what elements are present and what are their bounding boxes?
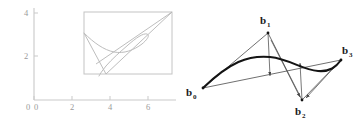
chord-b0-b1 — [84, 33, 106, 74]
label-b1: b 1 — [260, 14, 271, 29]
control-polygon — [203, 33, 341, 100]
left-plot-panel: 2 4 0 0 2 4 6 — [0, 0, 178, 124]
bezier-diagram-svg: b 0 b 1 b 2 b 3 — [178, 0, 356, 124]
label-b2: b 2 — [295, 105, 306, 120]
x-axis-ticks — [34, 96, 148, 100]
arrow-b1-down-icon — [268, 33, 270, 76]
chord-b2-b3 — [96, 12, 172, 64]
label-b3-sub: 3 — [349, 51, 353, 59]
control-point-b2 — [301, 99, 304, 102]
polygon-edge-b0-b3 — [203, 60, 341, 88]
y-tick-label-2: 2 — [24, 51, 28, 61]
label-b3: b 3 — [342, 44, 353, 59]
label-b2-base: b — [295, 105, 301, 117]
label-b0: b 0 — [186, 86, 197, 101]
chord-b1-b2 — [106, 12, 172, 74]
label-b1-base: b — [260, 14, 266, 26]
right-bezier-panel: b 0 b 1 b 2 b 3 — [178, 0, 356, 124]
bezier-curve — [203, 57, 341, 88]
left-plot-curve — [84, 33, 148, 76]
polygon-edge-b1-b2 — [268, 33, 302, 100]
origin-label: 0 — [26, 102, 30, 112]
x-tick-label-6: 6 — [146, 102, 150, 112]
x-tick-label-4: 4 — [108, 102, 113, 112]
left-plot-chords — [84, 12, 172, 74]
arrow-b1-to-b2-icon — [271, 40, 300, 97]
x-tick-label-0: 0 — [34, 102, 38, 112]
left-plot-axes — [34, 8, 176, 100]
label-b0-sub: 0 — [193, 93, 197, 101]
left-plot-svg: 2 4 0 0 2 4 6 — [0, 0, 178, 124]
label-b0-base: b — [186, 86, 192, 98]
y-tick-label-4: 4 — [24, 8, 29, 18]
figure-pair: 2 4 0 0 2 4 6 — [0, 0, 356, 124]
control-point-b0 — [202, 87, 205, 90]
control-point-b3 — [340, 59, 343, 62]
control-point-b1 — [267, 32, 270, 35]
arrow-b2-up-icon — [300, 63, 302, 100]
y-axis-ticks — [34, 13, 38, 56]
label-b3-base: b — [342, 44, 348, 56]
label-b2-sub: 2 — [302, 112, 306, 120]
label-b1-sub: 1 — [267, 21, 271, 29]
x-tick-label-2: 2 — [70, 102, 74, 112]
